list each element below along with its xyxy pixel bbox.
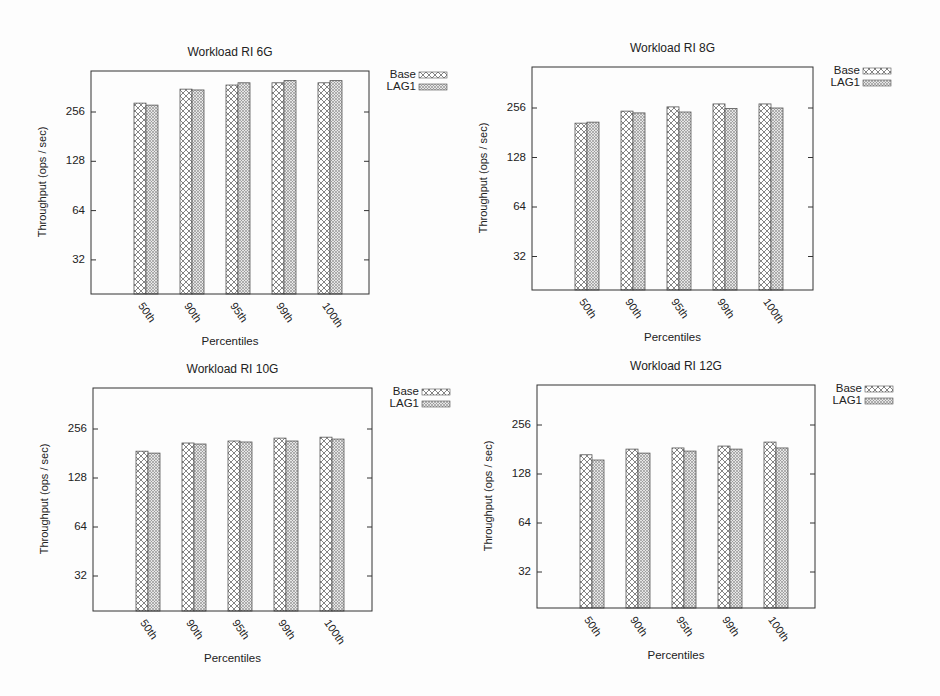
y-axis-label: Throughput (ops / sec): [482, 396, 494, 596]
x-axis-label: Percentiles: [573, 331, 773, 343]
legend-swatch-lag1: [419, 84, 447, 90]
bar-base-50th: [580, 455, 592, 608]
chart-title: Workload RI 10G: [83, 362, 383, 376]
y-tick-label: 256: [496, 101, 526, 113]
legend-label-lag1: LAG1: [812, 394, 862, 406]
y-tick-label: 128: [496, 151, 526, 163]
legend-swatch-base: [422, 389, 450, 395]
legend-swatch-lag1: [422, 401, 450, 407]
y-tick-label: 32: [57, 569, 87, 581]
legend-label-base: Base: [369, 385, 419, 397]
y-axis-label: Throughput (ops / sec): [38, 399, 50, 599]
chart-panel-6g: Workload RI 6G Throughput (ops / sec) Pe…: [0, 0, 440, 350]
y-tick-label: 64: [501, 516, 531, 528]
bar-lag1-99th: [286, 441, 298, 611]
bar-base-100th: [320, 437, 332, 611]
legend-label-base: Base: [812, 382, 862, 394]
chart-title: Workload RI 6G: [80, 45, 380, 59]
chart-title: Workload RI 12G: [526, 359, 826, 373]
chart-panel-10g: Workload RI 10G Throughput (ops / sec) P…: [0, 345, 440, 695]
x-axis-label: Percentiles: [133, 652, 333, 664]
bar-base-50th: [134, 103, 146, 294]
bar-lag1-50th: [587, 122, 599, 290]
chart-title: Workload RI 8G: [523, 41, 823, 55]
bar-base-95th: [228, 441, 240, 611]
y-tick-label: 32: [55, 253, 85, 265]
bar-base-90th: [626, 449, 638, 608]
y-tick-label: 128: [57, 471, 87, 483]
bar-base-95th: [672, 448, 684, 608]
bar-lag1-95th: [240, 442, 252, 611]
bar-base-100th: [759, 104, 771, 290]
legend-swatch-lag1: [863, 80, 891, 86]
bar-lag1-90th: [192, 90, 204, 294]
legend-label-base: Base: [810, 64, 860, 76]
bar-base-90th: [180, 89, 192, 294]
bar-base-90th: [182, 443, 194, 611]
bar-base-100th: [318, 83, 330, 294]
bar-lag1-90th: [638, 453, 650, 608]
bar-lag1-50th: [592, 460, 604, 608]
legend-label-lag1: LAG1: [810, 76, 860, 88]
bar-base-100th: [764, 442, 776, 608]
y-tick-label: 64: [55, 204, 85, 216]
legend-label-lag1: LAG1: [366, 80, 416, 92]
bar-lag1-100th: [771, 108, 783, 290]
y-tick-label: 128: [55, 154, 85, 166]
bar-base-99th: [713, 104, 725, 290]
bar-lag1-100th: [776, 448, 788, 608]
legend-swatch-base: [865, 386, 893, 392]
bar-base-95th: [667, 107, 679, 290]
y-tick-label: 256: [501, 418, 531, 430]
legend-swatch-base: [419, 72, 447, 78]
bar-base-50th: [136, 451, 148, 611]
bar-base-50th: [575, 123, 587, 290]
bar-lag1-100th: [332, 439, 344, 611]
bar-base-95th: [226, 85, 238, 294]
y-tick-label: 256: [57, 422, 87, 434]
bar-lag1-50th: [148, 453, 160, 611]
x-axis-label: Percentiles: [576, 649, 776, 661]
legend-label-lag1: LAG1: [369, 397, 419, 409]
bar-lag1-90th: [633, 113, 645, 290]
y-tick-label: 32: [496, 250, 526, 262]
bar-lag1-100th: [330, 81, 342, 294]
y-tick-label: 32: [501, 565, 531, 577]
y-axis-label: Throughput (ops / sec): [477, 78, 489, 278]
bar-lag1-90th: [194, 444, 206, 611]
chart-panel-8g: Workload RI 8G Throughput (ops / sec) Pe…: [470, 0, 910, 350]
y-tick-label: 128: [501, 467, 531, 479]
y-tick-label: 64: [57, 520, 87, 532]
legend-swatch-base: [863, 68, 891, 74]
legend-label-base: Base: [366, 68, 416, 80]
bar-lag1-99th: [284, 81, 296, 294]
bar-base-99th: [718, 446, 730, 608]
legend-swatch-lag1: [865, 398, 893, 404]
bar-lag1-95th: [684, 451, 696, 608]
bar-base-99th: [274, 438, 286, 611]
bar-base-90th: [621, 111, 633, 290]
bar-base-99th: [272, 83, 284, 294]
bar-lag1-95th: [679, 112, 691, 290]
y-tick-label: 64: [496, 200, 526, 212]
bar-lag1-50th: [146, 105, 158, 294]
y-tick-label: 256: [55, 105, 85, 117]
bar-lag1-99th: [725, 109, 737, 290]
chart-panel-12g: Workload RI 12G Throughput (ops / sec) P…: [470, 345, 910, 695]
y-axis-label: Throughput (ops / sec): [36, 82, 48, 282]
bar-lag1-95th: [238, 83, 250, 294]
bar-lag1-99th: [730, 449, 742, 608]
